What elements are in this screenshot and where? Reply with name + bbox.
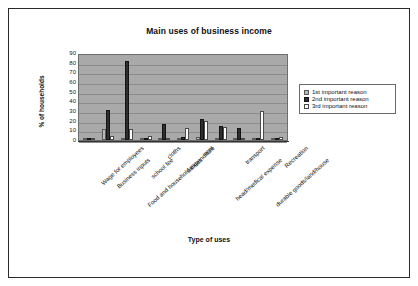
bar-group — [230, 55, 249, 140]
legend-label: 3rd important reason — [312, 103, 367, 109]
y-tick-label: 80 — [58, 60, 76, 67]
x-tick-label: head/medical expense — [235, 157, 284, 202]
bar-group — [155, 55, 174, 140]
bar-group — [249, 55, 268, 140]
y-tick-label: 20 — [58, 118, 76, 125]
plot-area — [78, 54, 288, 141]
y-tick-label: 10 — [58, 127, 76, 134]
bar — [241, 138, 245, 140]
bar-groups — [79, 55, 287, 140]
legend-swatch-icon — [304, 90, 309, 95]
bar-group — [211, 55, 230, 140]
bar — [279, 137, 283, 140]
x-tick-label: cloths — [166, 145, 182, 161]
bar — [91, 138, 95, 140]
bar — [129, 129, 133, 140]
bar — [185, 128, 189, 140]
y-axis-title: % of households — [38, 57, 45, 147]
chart-page: Main uses of business income 90807060504… — [0, 0, 418, 286]
bar — [204, 121, 208, 140]
y-tick-label: 50 — [58, 89, 76, 96]
legend-label: 1st important reason — [312, 89, 367, 95]
y-tick-label: 0 — [58, 137, 76, 144]
bar-group — [267, 55, 286, 140]
legend-item: 1st important reason — [304, 89, 392, 95]
x-axis-tick-labels: Wage for employeesBusiness inputsFood an… — [78, 143, 288, 223]
bar-group — [136, 55, 155, 140]
legend-swatch-icon — [304, 104, 309, 109]
y-tick-label: 60 — [58, 79, 76, 86]
legend-item: 3rd important reason — [304, 103, 392, 109]
legend-label: 2nd important reason — [312, 96, 369, 102]
bar-group — [174, 55, 193, 140]
legend-swatch-icon — [304, 97, 309, 102]
y-axis-tick-labels: 9080706050403020100 — [58, 50, 76, 145]
bar — [223, 127, 227, 140]
x-tick-label: utilities — [186, 157, 204, 174]
y-tick-label: 30 — [58, 108, 76, 115]
bar — [110, 136, 114, 140]
legend-item: 2nd important reason — [304, 96, 392, 102]
x-axis-line — [78, 141, 289, 142]
y-tick-label: 70 — [58, 69, 76, 76]
bar — [260, 111, 264, 140]
y-tick-label: 90 — [58, 50, 76, 57]
bar-group — [80, 55, 99, 140]
chart-title: Main uses of business income — [0, 26, 418, 36]
bar-group — [192, 55, 211, 140]
x-axis-title: Type of uses — [0, 236, 418, 243]
y-tick-label: 40 — [58, 98, 76, 105]
bar — [125, 61, 129, 140]
chart-legend: 1st important reason2nd important reason… — [299, 84, 396, 114]
bar — [166, 138, 170, 140]
bar-group — [117, 55, 136, 140]
bar — [148, 136, 152, 140]
bar-group — [99, 55, 118, 140]
x-tick-label: school fee — [150, 157, 175, 181]
x-tick-label: transport — [244, 145, 266, 166]
